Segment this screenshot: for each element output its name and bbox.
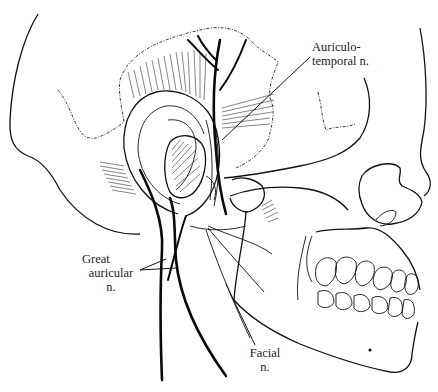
zygomatic-arch [230,187,348,210]
ramus-line [297,236,306,300]
masseter-fan [262,200,278,222]
superior-auricular-muscle [128,50,206,100]
temporal-suture [318,92,356,130]
auriculotemporal-leader [222,57,310,140]
ear-canal [206,120,212,200]
mental-foramen [368,348,371,351]
facial-nerve-trunk [190,226,246,230]
anatomical-figure: Auriculo- temporal n. Great auricular n.… [0,0,438,392]
facial-label-line2: n. [244,360,286,374]
auriculotemporal-branch-3 [198,36,216,60]
posterior-auricular-muscle [100,162,136,194]
facial-label: Facial n. [244,346,286,374]
auriculotemporal-branch-2 [220,40,246,90]
maxilla-outline [316,228,420,290]
great-auricular-label: Great auricular n. [82,252,140,294]
maxilla-lower [307,236,312,282]
facial-nerve-branch-3 [206,230,250,338]
auriculotemporal-label-line2: temporal n. [312,54,369,68]
lower-teeth [318,290,414,318]
temporal-fossa [224,78,370,178]
facial-leader [226,284,255,345]
auriculotemporal-label-line1: Auriculo- [312,40,369,54]
great-auricular-nerve-2 [170,198,226,376]
great-auricular-label-line1: Great [82,252,140,266]
skull-ear-illustration [0,0,438,392]
mandibular-fossa [230,178,264,212]
upper-teeth [315,257,418,294]
auriculotemporal-label: Auriculo- temporal n. [312,40,369,68]
great-auricular-nerve [140,170,162,380]
antihelix [168,120,196,190]
frontal-outline [420,28,430,196]
orbit [359,164,422,224]
great-auricular-label-line2: auricular [82,266,140,280]
great-auricular-label-line3: n. [82,280,140,294]
auricle [124,91,220,216]
facial-label-line1: Facial [244,346,286,360]
anterior-auricular-muscle [222,94,274,128]
